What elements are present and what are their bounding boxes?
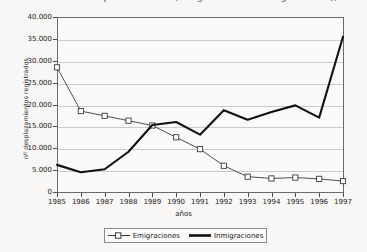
chart-legend: EmigracionesInmigraciones	[104, 228, 267, 243]
chart-figure: Evolución de los desplazamientos (emigra…	[0, 0, 367, 252]
x-tick-label: 1997	[328, 198, 358, 206]
x-tick-mark	[295, 193, 296, 197]
legend-label: Inmigraciones	[214, 232, 263, 240]
x-axis-title: años	[0, 210, 367, 218]
legend-entry: Emigraciones	[108, 231, 180, 240]
x-tick-mark	[152, 193, 153, 197]
x-tick-mark	[176, 193, 177, 197]
legend-swatch-icon	[189, 231, 211, 240]
x-tick-mark	[272, 193, 273, 197]
x-tick-mark	[129, 193, 130, 197]
legend-swatch-icon	[108, 231, 130, 240]
legend-label: Emigraciones	[133, 232, 180, 240]
x-tick-mark	[248, 193, 249, 197]
x-tick-mark	[57, 193, 58, 197]
x-tick-mark	[81, 193, 82, 197]
x-tick-mark	[224, 193, 225, 197]
x-tick-mark	[319, 193, 320, 197]
x-tick-mark	[343, 193, 344, 197]
x-tick-mark	[105, 193, 106, 197]
x-tick-mark	[200, 193, 201, 197]
legend-entry: Inmigraciones	[189, 231, 263, 240]
